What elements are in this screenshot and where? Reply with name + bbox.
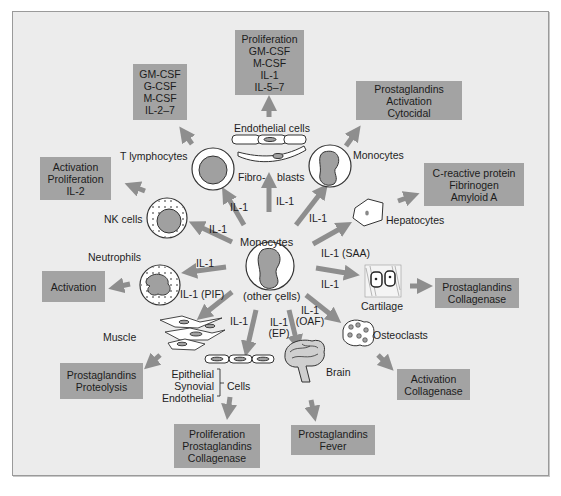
monocyte-cell: [309, 145, 351, 187]
effects-box-epithelial-cells: Proliferation Prostaglandins Collagenase: [174, 424, 260, 468]
effect-text: GM-CSF: [139, 68, 180, 80]
label-cartilage: Cartilage: [361, 300, 403, 312]
effect-text: Collagenase: [448, 293, 506, 305]
label-nk-cells: NK cells: [104, 213, 143, 225]
effects-box-muscle: Prostaglandins Proteolysis: [60, 363, 143, 399]
arrow-to-hepatocytes: [313, 226, 345, 244]
effect-text: Prostaglandins: [442, 281, 511, 293]
effect-text: Amyloid A: [451, 191, 498, 203]
effect-text: G-CSF: [144, 80, 177, 92]
label-blasts: blasts: [277, 171, 304, 183]
effect-text: Activation: [411, 373, 457, 385]
arrow-monocytes-effects: [346, 132, 356, 146]
effects-box-neutrophils: Activation: [42, 271, 105, 302]
signal-label-muscle: IL-1 (PIF): [180, 288, 224, 300]
effect-text: IL-5–7: [255, 81, 285, 93]
effect-text: Activation: [386, 95, 432, 107]
arrow-nk-effects: [132, 186, 145, 191]
effect-text: Proliferation: [241, 33, 297, 45]
label-osteoclasts: Osteoclasts: [373, 329, 428, 341]
effect-text: Fibrinogen: [449, 179, 499, 191]
neutrophil-cell: [140, 265, 180, 305]
signal-label-monocytes: IL-1: [309, 212, 327, 224]
label-endothelial-cells: Endothelial cells: [234, 122, 310, 134]
arrow-to-cartilage: [316, 268, 352, 274]
effect-text: IL-2: [66, 185, 84, 197]
effect-text: Proliferation: [47, 173, 103, 185]
effects-box-brain: Prostaglandins Fever: [291, 425, 375, 455]
effect-text: Collagenase: [188, 452, 246, 464]
effects-box-endothelial: Proliferation GM-CSF M-CSF IL-1 IL-5–7: [235, 30, 304, 95]
effect-text: IL-1: [260, 69, 278, 81]
arrow-osteoclasts-effects: [378, 355, 388, 365]
osteoclast-cell: [343, 320, 374, 346]
effect-text: Prostaglandins: [374, 83, 443, 95]
label-cells-group: Cells: [227, 380, 250, 392]
arrow-brain-effects: [311, 400, 314, 414]
cartilage-cell: [365, 265, 401, 297]
effect-text: Proteolysis: [76, 381, 127, 393]
label-endothelial: Endothelial: [150, 392, 214, 404]
endothelial-fibroblast-cells: [232, 135, 306, 162]
arrow-hepatocytes-effects: [398, 196, 412, 201]
label-synovial: Synovial: [160, 380, 214, 392]
cells-bracket: [217, 369, 224, 396]
label-t-lymphocytes: T lymphocytes: [120, 150, 188, 162]
arrow-t-lymph-effects: [184, 133, 192, 144]
effects-box-osteoclasts: Activation Collagenase: [397, 369, 470, 400]
signal-label-osteoclasts-2: (OAF): [295, 315, 325, 327]
effect-text: IL-2–7: [145, 104, 175, 116]
effect-text: Cytocidal: [387, 107, 430, 119]
effect-text: Collagenase: [404, 385, 462, 397]
signal-label-nk-cells: IL-1: [209, 223, 227, 235]
epithelial-cells: [205, 355, 274, 363]
effects-box-t-lymphocytes: GM-CSF G-CSF M-CSF IL-2–7: [133, 64, 187, 120]
effects-box-monocytes: Prostaglandins Activation Cytocidal: [356, 81, 462, 120]
t-lymphocyte-cell: [192, 148, 234, 190]
effect-text: M-CSF: [253, 57, 286, 69]
signal-label-t-lymphocytes: IL-1: [230, 201, 248, 213]
center-label-monocytes: Monocytes: [240, 236, 293, 248]
center-label-other-cells: (other çells): [243, 290, 300, 302]
hepatocyte-cell: [353, 199, 383, 226]
label-monocytes: Monocytes: [353, 149, 404, 161]
signal-label-fibroblasts: IL-1: [276, 195, 294, 207]
arrow-cells-effects: [228, 397, 230, 412]
effect-text: Fever: [320, 440, 347, 452]
signal-label-cartilage: IL-1: [321, 278, 339, 290]
effect-text: Activation: [51, 281, 97, 293]
arrow-muscle-effects: [150, 355, 160, 364]
center-monocyte-cell: [246, 242, 294, 290]
effect-text: Prostaglandins: [67, 369, 136, 381]
arrow-to-epithelial: [247, 310, 256, 349]
signal-label-brain-2: (EP): [265, 327, 293, 339]
effect-text: Prostaglandins: [298, 428, 367, 440]
signal-label-epithelial: IL-1: [230, 315, 248, 327]
label-muscle: Muscle: [103, 331, 136, 343]
label-fibro: Fibro-: [238, 171, 265, 183]
effect-text: Proliferation: [189, 428, 245, 440]
effects-box-hepatocytes: C-reactive protein Fibrinogen Amyloid A: [424, 163, 524, 206]
brain-icon: [285, 340, 325, 382]
effect-text: GM-CSF: [249, 45, 290, 57]
muscle-cells: [160, 316, 225, 350]
label-brain: Brain: [326, 366, 351, 378]
effect-text: M-CSF: [143, 92, 176, 104]
effect-text: C-reactive protein: [433, 167, 516, 179]
effect-text: Prostaglandins: [182, 440, 251, 452]
diagram-canvas: GM-CSF G-CSF M-CSF IL-2–7 Proliferation …: [0, 0, 561, 496]
effects-box-cartilage: Prostaglandins Collagenase: [435, 278, 519, 308]
effect-text: Activation: [53, 161, 99, 173]
nk-cell: [147, 198, 187, 238]
effects-box-nk-cells: Activation Proliferation IL-2: [40, 157, 111, 200]
signal-label-neutrophils: IL-1: [196, 257, 214, 269]
arrow-neutrophils-effects: [116, 284, 130, 287]
signal-label-hepatocytes: IL-1 (SAA): [321, 247, 370, 259]
label-epithelial: Epithelial: [170, 368, 214, 380]
label-hepatocytes: Hepatocytes: [386, 214, 444, 226]
label-neutrophils: Neutrophils: [88, 251, 141, 263]
